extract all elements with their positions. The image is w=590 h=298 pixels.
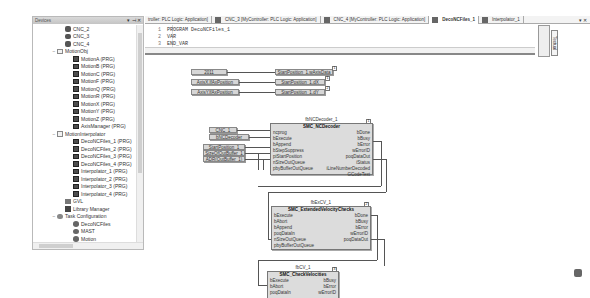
- tree-item[interactable]: −Task Configuration: [33, 213, 136, 221]
- block-inputs: ncprogbExecutebAppendbStepSuppresspiStar…: [271, 130, 315, 178]
- prg-icon: [73, 116, 79, 122]
- cfc-canvas[interactable]: 2011 StartPosition_1.wAxisData 1 AxisX.l…: [145, 59, 585, 298]
- tab-cnc-2[interactable]: troller: PLC Logic: Application]: [145, 16, 212, 24]
- tree-item[interactable]: Interpolator_3 (PRG): [33, 183, 136, 191]
- close-icon[interactable]: ✕: [136, 18, 141, 23]
- tree-item-label: DecoNCFiles_1 (PRG): [81, 138, 132, 144]
- tree-item[interactable]: MAST: [33, 228, 136, 236]
- folder-icon: [57, 131, 63, 137]
- declaration-horizontal-scrollbar[interactable]: [145, 47, 535, 53]
- prg-icon: [73, 64, 79, 70]
- scroll-thumb[interactable]: [39, 244, 73, 248]
- cnc-icon: [324, 17, 330, 23]
- tree-item[interactable]: CNC_4: [33, 40, 136, 48]
- tree-item[interactable]: MotionB (PRG): [33, 63, 136, 71]
- input-var[interactable]: 2011: [191, 69, 227, 75]
- tree-item-label: MotionQ (PRG): [81, 86, 115, 92]
- tree-item[interactable]: CNC_2: [33, 25, 136, 33]
- tree-item[interactable]: DecoNCFiles_4 (PRG): [33, 160, 136, 168]
- prg-icon: [73, 101, 79, 107]
- input-var[interactable]: ADR(OutBuffer_1): [203, 156, 245, 162]
- tree-item[interactable]: DecoNCFiles: [33, 220, 136, 228]
- output-var[interactable]: StartPosition_1.wAxisData: [275, 69, 333, 75]
- prg-icon: [73, 191, 79, 197]
- block-instance-name[interactable]: fbNCDecoder_1: [271, 117, 372, 122]
- tree-item[interactable]: Library Manager: [33, 205, 136, 213]
- input-pin[interactable]: pbyBufferOutQueue: [271, 166, 315, 172]
- input-var[interactable]: bNCDecoder: [209, 134, 249, 140]
- tab-controls[interactable]: ▾ ✕: [579, 17, 590, 23]
- tree-item[interactable]: MotionX (PRG): [33, 100, 136, 108]
- tree-item[interactable]: −MotionObj: [33, 48, 136, 56]
- output-pin[interactable]: GCodeText: [324, 172, 372, 178]
- zoom-icon[interactable]: [574, 269, 582, 277]
- prg-icon: [73, 79, 79, 85]
- tree-item[interactable]: MotionC (PRG): [33, 70, 136, 78]
- tree-item[interactable]: Interpolator_1 (PRG): [33, 168, 136, 176]
- tree-item-label: MAST: [81, 228, 95, 234]
- tree-item[interactable]: Interpolator_4 (PRG): [33, 190, 136, 198]
- function-block-nc-decoder[interactable]: fbNCDecoder_1 SMC_NCDecoder 1 ncprogbExe…: [270, 123, 373, 175]
- folder-icon: [57, 49, 63, 55]
- tree-item-label: Motion: [81, 236, 96, 242]
- wire: [258, 260, 377, 261]
- scroll-thumb[interactable]: [138, 33, 142, 173]
- input-var[interactable]: CNC_1: [209, 127, 237, 133]
- tab-deconcfiles-1[interactable]: DecoNCFiles_1: [429, 16, 479, 24]
- textual-view-toggle[interactable]: Textual: [551, 30, 558, 56]
- block-outputs: bDonebBusybErrorwErrorIDpoqDataOut: [342, 213, 370, 249]
- output-var[interactable]: StartPosition_1.dX: [275, 79, 325, 85]
- tree-item[interactable]: MotionA (PRG): [33, 55, 136, 63]
- devices-vertical-scrollbar[interactable]: [136, 25, 143, 242]
- block-outputs: bDonebBusybErrorwErrorIDpoqDataOutiStatu…: [324, 130, 372, 178]
- tree-item[interactable]: Motion: [33, 235, 136, 242]
- declaration-editor[interactable]: 1PROGRAM DecoNCFiles_1 2VAR 3END_VAR: [145, 25, 535, 55]
- output-pin[interactable]: poqDataOut: [342, 237, 370, 243]
- tree-item[interactable]: MotionF (PRG): [33, 78, 136, 86]
- tree-item[interactable]: MotionR (PRG): [33, 93, 136, 101]
- block-instance-name[interactable]: fbCV_1: [268, 265, 338, 270]
- devices-panel-header: Devices ▾ ⊣ ✕: [33, 17, 143, 24]
- tree-item[interactable]: MotionY (PRG): [33, 108, 136, 116]
- tree-item[interactable]: GVL: [33, 198, 136, 206]
- block-inputs: bExecutebAbortpoqDataIn: [268, 278, 293, 296]
- tree-item[interactable]: DecoNCFiles_1 (PRG): [33, 138, 136, 146]
- declaration-vertical-scrollbar[interactable]: [538, 25, 550, 57]
- tree-item-label: DecoNCFiles_4 (PRG): [81, 161, 132, 167]
- tree-item[interactable]: −MotionInterpolator: [33, 130, 136, 138]
- output-pin[interactable]: wErrorID: [316, 290, 338, 296]
- tab-cnc-3[interactable]: CNC_3 [MyController: PLC Logic: Applicat…: [212, 16, 321, 24]
- tab-cnc-4[interactable]: CNC_4 [MyController: PLC Logic: Applicat…: [321, 16, 430, 24]
- wire: [258, 186, 381, 187]
- function-block-extended-velocity-checks[interactable]: fbExCV_1 SMC_ExtendedVelocityChecks 2 bE…: [271, 206, 371, 250]
- block-outputs: bBusybErrorwErrorID: [316, 278, 338, 296]
- wire: [239, 92, 275, 93]
- tree-item[interactable]: AxisManager (PRG): [33, 123, 136, 131]
- execution-order: 2: [325, 86, 330, 91]
- tree-item[interactable]: MotionZ (PRG): [33, 115, 136, 123]
- block-instance-name[interactable]: fbExCV_1: [272, 200, 370, 205]
- tree-item-label: Library Manager: [73, 206, 109, 212]
- tree-item-label: AxisManager (PRG): [81, 123, 126, 129]
- tree-item-label: MotionObj: [65, 48, 88, 54]
- input-pin[interactable]: poqDataIn: [268, 290, 293, 296]
- devices-horizontal-scrollbar[interactable]: [33, 242, 143, 249]
- input-pin[interactable]: pbyBufferOutQueue: [272, 243, 316, 249]
- output-var[interactable]: StartPosition_1.dY: [275, 89, 325, 95]
- prg-icon: [73, 124, 79, 130]
- tree-item[interactable]: DecoNCFiles_3 (PRG): [33, 153, 136, 161]
- tree-item[interactable]: DecoNCFiles_2 (PRG): [33, 145, 136, 153]
- input-var[interactable]: AxisY.lfAxPosition: [191, 89, 239, 95]
- tree-item-label: MotionF (PRG): [81, 78, 115, 84]
- tab-interpolator-1[interactable]: Interpolator_1: [479, 16, 524, 24]
- input-var[interactable]: AxisX.lfAxPosition: [191, 79, 239, 85]
- cnc-icon: [65, 41, 71, 47]
- tree-item[interactable]: Interpolator_2 (PRG): [33, 175, 136, 183]
- prg-icon: [73, 176, 79, 182]
- tree-item[interactable]: CNC_3: [33, 33, 136, 41]
- function-block-check-velocities[interactable]: fbCV_1 SMC_CheckVelocities 3 bExecutebAb…: [267, 271, 339, 298]
- tree-item[interactable]: MotionQ (PRG): [33, 85, 136, 93]
- editor-area: troller: PLC Logic: Application] CNC_3 […: [145, 16, 590, 298]
- wire: [249, 137, 270, 138]
- wire: [371, 239, 384, 240]
